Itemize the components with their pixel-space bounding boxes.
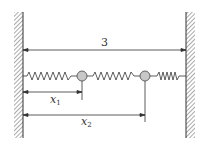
mass-2 [140,71,150,81]
right-wall [186,12,195,138]
total-length-label: 3 [101,36,108,49]
springs [23,72,186,80]
x2-label: x2 [81,115,92,129]
mass-1 [77,71,87,81]
x1-label: x1 [50,93,61,107]
left-wall [14,12,23,138]
spring-mass-diagram: 3 x1 x2 [0,0,209,147]
